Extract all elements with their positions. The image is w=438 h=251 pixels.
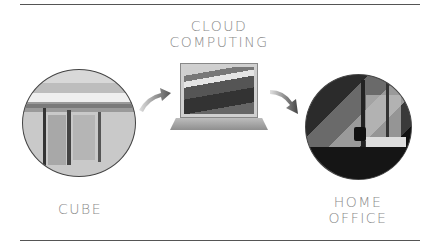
curved-arrow-up-right-icon	[137, 84, 173, 114]
home-office-photo	[305, 74, 412, 180]
home-office-label: HOME OFFICE	[318, 194, 398, 226]
laptop-photo	[170, 63, 268, 133]
title-line-2: COMPUTING	[169, 34, 269, 50]
bottom-divider	[20, 240, 420, 241]
cloud-computing-title: CLOUD COMPUTING	[169, 18, 269, 50]
curved-arrow-down-right-icon	[268, 84, 304, 116]
home-label-line-2: OFFICE	[318, 210, 398, 226]
top-divider	[20, 4, 420, 5]
title-line-1: CLOUD	[169, 18, 269, 34]
laptop-screen	[180, 63, 258, 118]
cube-label: CUBE	[40, 201, 120, 217]
cube-office-photo	[22, 69, 136, 177]
laptop-keyboard-base	[170, 118, 268, 130]
home-label-line-1: HOME	[318, 194, 398, 210]
